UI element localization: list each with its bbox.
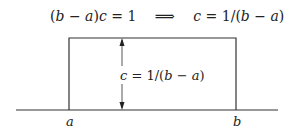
axis-label-a: a bbox=[66, 114, 74, 129]
implies-arrow: ⟹ bbox=[155, 8, 175, 24]
arrow-down-head-icon bbox=[120, 102, 125, 110]
arrow-up-head-icon bbox=[120, 38, 125, 46]
uniform-distribution-figure: (b − a)c = 1 ⟹ c = 1/(b − a) c = 1/(b − … bbox=[0, 0, 290, 131]
height-label: c = 1/(b − a) bbox=[120, 68, 205, 83]
axis-label-b: b bbox=[233, 114, 241, 129]
top-equation: (b − a)c = 1 ⟹ c = 1/(b − a) bbox=[50, 8, 284, 24]
